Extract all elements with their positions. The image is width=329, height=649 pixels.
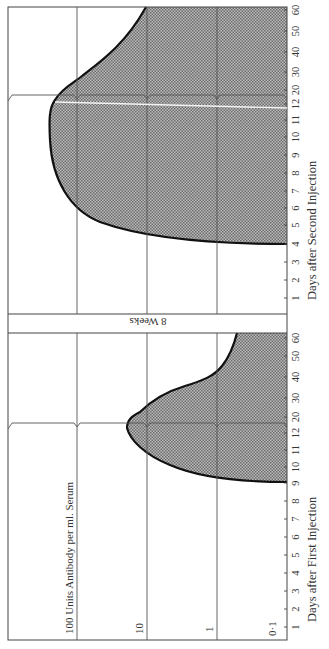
x-axis-title-second: Days after Second Injection bbox=[305, 161, 320, 300]
x-tick-label: 40 bbox=[290, 367, 302, 387]
x-tick-label: 50 bbox=[290, 21, 302, 41]
x-axis-title-first: Days after First Injection bbox=[305, 497, 320, 622]
x-tick-label: 10 bbox=[290, 127, 302, 147]
y-axis-title: 100 Units Antibody per ml. Serum bbox=[63, 482, 75, 634]
y-label-1: 1 bbox=[203, 627, 215, 633]
x-tick-label: 2 bbox=[290, 270, 302, 290]
x-tick-label: 30 bbox=[290, 62, 302, 82]
x-tick-label: 8 bbox=[290, 163, 302, 183]
x-tick-label: 8 bbox=[290, 491, 302, 511]
x-tick-label: 4 bbox=[290, 234, 302, 254]
x-tick-label: 6 bbox=[290, 527, 302, 547]
y-label-0-1: 0·1 bbox=[266, 621, 278, 636]
x-tick-label: 9 bbox=[290, 473, 302, 493]
x-tick-label: 3 bbox=[290, 252, 302, 272]
x-tick-label: 4 bbox=[290, 563, 302, 583]
x-tick-label: 2 bbox=[290, 599, 302, 619]
x-tick-label: 5 bbox=[290, 545, 302, 565]
x-tick-label: 50 bbox=[290, 346, 302, 366]
x-tick-label: 1 bbox=[290, 617, 302, 637]
x-tick-label: 30 bbox=[290, 388, 302, 408]
x-tick-label: 3 bbox=[290, 581, 302, 601]
x-tick-label: 40 bbox=[290, 42, 302, 62]
y-label-10: 10 bbox=[133, 623, 145, 634]
x-tick-label: 7 bbox=[290, 509, 302, 529]
x-tick-label: 60 bbox=[290, 0, 302, 20]
eight-weeks-label: 8 Weeks bbox=[118, 316, 178, 328]
x-tick-label: 9 bbox=[290, 145, 302, 165]
first-injection-area bbox=[127, 333, 287, 482]
x-tick-label: 5 bbox=[290, 215, 302, 235]
x-tick-label: 60 bbox=[290, 328, 302, 348]
second-injection-area bbox=[50, 7, 287, 244]
x-tick-label: 1 bbox=[290, 288, 302, 308]
